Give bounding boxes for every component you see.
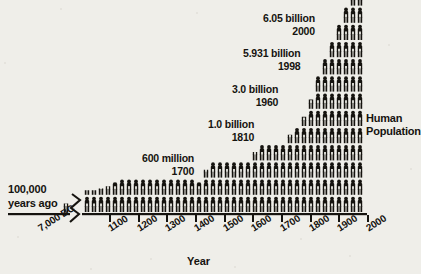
left-note-100000-years-ago: 100,000 years ago [8, 183, 58, 210]
population-pictograph-chart: 600 million 1700 1.0 billion 1810 3.0 bi… [0, 0, 421, 274]
paper-speckle [60, 8, 62, 10]
paper-speckle [196, 12, 198, 14]
annotation-value: 600 million [142, 152, 194, 164]
paper-speckle [388, 44, 390, 46]
paper-speckle [349, 255, 351, 257]
paper-speckle [4, 62, 6, 64]
paper-speckle [300, 238, 302, 240]
annotation-year: 1960 [232, 96, 278, 109]
paper-speckle [17, 236, 19, 238]
paper-speckle [90, 268, 92, 270]
left-note-line2: years ago [8, 197, 58, 209]
annotation-year: 1810 [208, 131, 254, 144]
annotation-1960: 3.0 billion 1960 [232, 83, 278, 108]
annotation-value: 3.0 billion [232, 83, 278, 95]
series-label-human-population: Human Population [366, 112, 421, 138]
annotation-2000: 6.05 billion 2000 [263, 12, 315, 37]
left-note-line1: 100,000 [8, 183, 46, 195]
series-label-line2: Population [366, 125, 421, 137]
paper-speckle [128, 186, 130, 188]
annotation-value: 6.05 billion [263, 12, 315, 24]
paper-speckle [150, 258, 152, 260]
annotation-value: 5.931 billion [243, 47, 301, 59]
annotation-year: 1700 [142, 165, 194, 178]
annotation-1998: 5.931 billion 1998 [243, 47, 301, 72]
annotation-year: 1998 [243, 60, 301, 73]
x-axis-title: Year [187, 255, 210, 267]
paper-speckle [410, 168, 412, 170]
annotation-value: 1.0 billion [208, 118, 254, 130]
annotation-1700: 600 million 1700 [142, 152, 194, 177]
paper-speckle [234, 266, 236, 268]
annotation-1810: 1.0 billion 1810 [208, 118, 254, 143]
annotation-year: 2000 [263, 25, 315, 38]
series-label-line1: Human [366, 112, 402, 124]
